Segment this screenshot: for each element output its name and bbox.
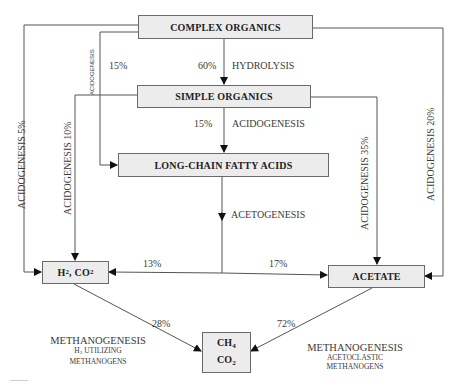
ch4-sub: 4 <box>232 342 236 350</box>
co2-line: CO2 <box>217 353 236 370</box>
label-acetogenesis: ACETOGENESIS <box>231 209 305 220</box>
node-acetate: ACETATE <box>328 265 425 288</box>
node-h2-co2: H2, CO2 <box>42 261 109 284</box>
methanogenesis-left-line2: H2 UTILIZING <box>48 346 148 357</box>
h2-util-post: UTILIZING <box>82 346 121 355</box>
ch4-line: CH4 <box>217 336 236 353</box>
co2-sub: 2 <box>90 266 94 279</box>
node-long-chain-fatty-acids: LONG-CHAIN FATTY ACIDS <box>118 153 329 177</box>
clipped-caption-fragment <box>10 380 28 381</box>
ch4-main: CH <box>217 337 232 348</box>
label-pct-72: 72% <box>277 318 295 329</box>
label-pct-28: 28% <box>152 318 170 329</box>
node-simple-organics: SIMPLE ORGANICS <box>137 85 311 108</box>
label-hydrolysis: HYDROLYSIS <box>232 60 294 71</box>
label-pct-15-top: 15% <box>109 60 127 71</box>
label-acidogenesis-20: ACIDOGENESIS 20% <box>425 107 436 201</box>
node-ch4-co2: CH4 CO2 <box>202 332 251 373</box>
label-pct-17: 17% <box>269 258 287 269</box>
methanogenesis-right-title: METHANOGENESIS <box>300 342 410 353</box>
label-pct-60: 60% <box>198 60 216 71</box>
label-pct-13: 13% <box>143 258 161 269</box>
methanogenesis-left-title: METHANOGENESIS <box>48 335 148 346</box>
methanogenesis-left-line3: METHANOGENS <box>48 357 148 366</box>
label-acidogenesis-small: ACIDOGENESIS <box>89 49 95 95</box>
node-complex-organics: COMPLEX ORGANICS <box>138 15 313 39</box>
co2-main-bottom: CO <box>217 354 232 365</box>
methanogenesis-right-line2: ACETOCLASTIC <box>300 353 410 362</box>
co2-main: , CO <box>69 266 90 279</box>
arrow-acetogenesis-17 <box>222 273 327 275</box>
h2-main: H <box>57 266 65 279</box>
label-acidogenesis-10: ACIDOGENESIS 10% <box>62 121 73 215</box>
co2-sub-bottom: 2 <box>232 359 236 367</box>
label-acidogenesis-35: ACIDOGENESIS 35% <box>359 136 370 230</box>
arrow-acidogenesis-10 <box>75 95 137 260</box>
label-methanogenesis-h2: METHANOGENESIS H2 UTILIZING METHANOGENS <box>48 335 148 366</box>
label-acidogenesis-5: ACIDOGENESIS 5% <box>16 120 27 209</box>
methanogenesis-right-line3: METHANOGENS <box>300 362 410 371</box>
anaerobic-digestion-diagram: COMPLEX ORGANICS SIMPLE ORGANICS LONG-CH… <box>0 0 458 387</box>
label-pct-15-mid: 15% <box>194 118 212 129</box>
arrow-acidogenesis-15-top <box>100 32 138 165</box>
label-acidogenesis-mid: ACIDOGENESIS <box>232 118 305 129</box>
arrow-acetogenesis-13 <box>109 272 222 273</box>
label-methanogenesis-acetoclastic: METHANOGENESIS ACETOCLASTIC METHANOGENS <box>300 342 410 371</box>
